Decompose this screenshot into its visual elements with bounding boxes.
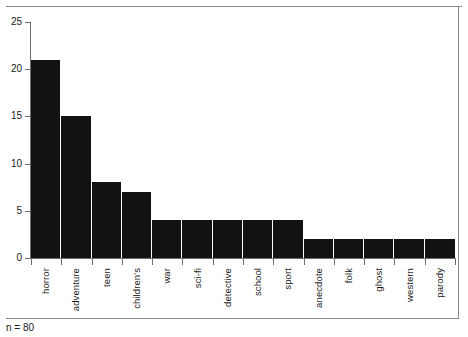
- y-tick-label: 10: [0, 159, 22, 169]
- x-tick-mark: [334, 259, 335, 265]
- bar: [394, 239, 424, 258]
- bar: [31, 60, 61, 258]
- chart-figure: 0510152025 horroradventureteenchildren's…: [0, 0, 468, 337]
- y-tick-label: 20: [0, 64, 22, 74]
- bar: [182, 220, 212, 258]
- x-tick-label: detective: [223, 268, 233, 307]
- bar: [92, 182, 122, 258]
- x-tick-label: sport: [283, 268, 293, 290]
- x-tick-mark: [364, 259, 365, 265]
- x-tick-mark: [61, 259, 62, 265]
- x-tick-mark: [182, 259, 183, 265]
- x-tick-label: anecdote: [314, 268, 324, 308]
- x-tick-label: horror: [41, 268, 51, 294]
- x-tick-mark: [273, 259, 274, 265]
- x-tick-mark: [394, 259, 395, 265]
- frame-right-rule: [458, 6, 459, 319]
- bar: [304, 239, 334, 258]
- y-tick-label: 15: [0, 111, 22, 121]
- x-tick-label: parody: [435, 268, 445, 298]
- x-tick-mark: [213, 259, 214, 265]
- bar: [213, 220, 243, 258]
- x-tick-label: war: [162, 268, 172, 284]
- x-tick-label: folk: [344, 268, 354, 283]
- x-tick-label: adventure: [71, 268, 81, 311]
- x-tick-mark: [152, 259, 153, 265]
- x-tick-label: teen: [102, 268, 112, 287]
- y-tick-label: 0: [0, 253, 22, 263]
- x-tick-mark: [92, 259, 93, 265]
- x-tick-mark: [304, 259, 305, 265]
- bar: [61, 116, 91, 258]
- bar: [122, 192, 152, 258]
- frame-bottom-rule: [6, 318, 458, 319]
- x-tick-label: school: [253, 268, 263, 296]
- x-tick-mark: [455, 259, 456, 265]
- plot-area: [31, 22, 455, 258]
- bar: [243, 220, 273, 258]
- x-tick-label: ghost: [374, 268, 384, 292]
- y-tick-label: 5: [0, 206, 22, 216]
- x-tick-label: western: [405, 268, 415, 302]
- x-tick-mark: [425, 259, 426, 265]
- y-tick-label: 25: [0, 17, 22, 27]
- frame-top-rule: [6, 6, 462, 7]
- x-tick-mark: [122, 259, 123, 265]
- bar: [273, 220, 303, 258]
- x-tick-mark: [243, 259, 244, 265]
- x-tick-mark: [31, 259, 32, 265]
- footnote: n = 80: [6, 322, 34, 333]
- bar: [152, 220, 182, 258]
- bar: [364, 239, 394, 258]
- x-tick-label: children's: [132, 268, 142, 309]
- bar: [334, 239, 364, 258]
- bar: [425, 239, 455, 258]
- x-tick-label: sci-fi: [193, 268, 203, 288]
